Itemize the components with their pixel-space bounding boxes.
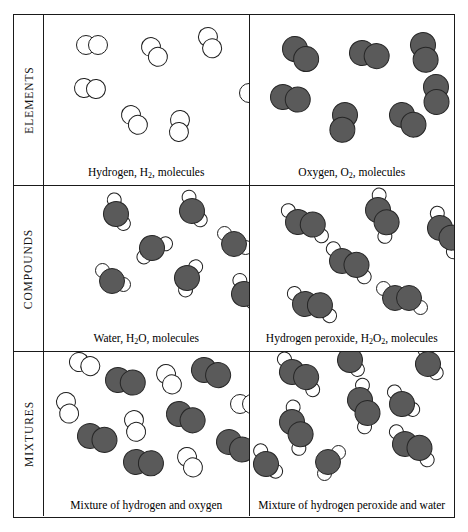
panel-caption: Hydrogen peroxide, H2O2, molecules: [250, 332, 455, 347]
panel-hydrogen-peroxide: Hydrogen peroxide, H2O2, molecules: [250, 186, 455, 351]
molecule-field: [44, 186, 249, 325]
oxygen-atom: [221, 231, 247, 257]
caption-text: , molecules: [385, 332, 437, 344]
oxygen-atom: [396, 285, 422, 311]
diagram-row-elements: ELEMENTSHydrogen, H2, moleculesOxygen, O…: [14, 15, 454, 186]
panel-caption: Oxygen, O2, molecules: [250, 166, 455, 181]
caption-text: Water, H: [94, 332, 135, 344]
row-label-text: COMPOUNDS: [23, 228, 35, 308]
row-label-mixtures: MIXTURES: [14, 352, 44, 516]
molecule-field: [44, 15, 249, 159]
caption-text: , molecules: [152, 166, 204, 178]
diagram-grid: ELEMENTSHydrogen, H2, moleculesOxygen, O…: [13, 14, 455, 518]
molecule-field: [250, 352, 455, 490]
caption-text: O, molecules: [138, 332, 199, 344]
row-label-compounds: COMPOUNDS: [14, 186, 44, 351]
row-label-elements: ELEMENTS: [14, 15, 44, 185]
molecule-field: [44, 352, 249, 490]
oxygen-atom: [315, 449, 341, 475]
caption-text: Oxygen, O: [298, 166, 348, 178]
oxygen-atom: [227, 277, 250, 312]
caption-text: Mixture of hydrogen peroxide and water: [258, 499, 445, 511]
caption-text: Hydrogen peroxide, H: [266, 332, 369, 344]
row-label-text: MIXTURES: [23, 401, 35, 467]
caption-text: Hydrogen, H: [88, 166, 148, 178]
diagram-row-mixtures: MIXTURESMixture of hydrogen and oxygenMi…: [14, 352, 454, 516]
molecule-field: [250, 15, 455, 159]
oxygen-atom: [423, 88, 450, 115]
diagram-row-compounds: COMPOUNDSWater, H2O, moleculesHydrogen p…: [14, 186, 454, 352]
panel-hydrogen: Hydrogen, H2, molecules: [44, 15, 250, 185]
caption-text: Mixture of hydrogen and oxygen: [70, 499, 222, 511]
panel-caption: Hydrogen, H2, molecules: [44, 166, 249, 181]
caption-text: , molecules: [353, 166, 405, 178]
row-label-text: ELEMENTS: [23, 66, 35, 133]
panel-oxygen: Oxygen, O2, molecules: [250, 15, 455, 185]
hydrogen-atom: [239, 83, 250, 103]
oxygen-atom: [99, 268, 125, 294]
panel-caption: Water, H2O, molecules: [44, 332, 249, 347]
panel-water: Water, H2O, molecules: [44, 186, 250, 351]
hydrogen-atom: [88, 35, 108, 55]
panel-caption: Mixture of hydrogen and oxygen: [44, 499, 249, 512]
panel-mixture-of-hydrogen-and-oxygen: Mixture of hydrogen and oxygen: [44, 352, 250, 516]
panel-mixture-of-hydrogen-peroxide-and-water: Mixture of hydrogen peroxide and water: [250, 352, 455, 516]
panel-caption: Mixture of hydrogen peroxide and water: [250, 499, 455, 512]
molecule-field: [250, 186, 455, 325]
